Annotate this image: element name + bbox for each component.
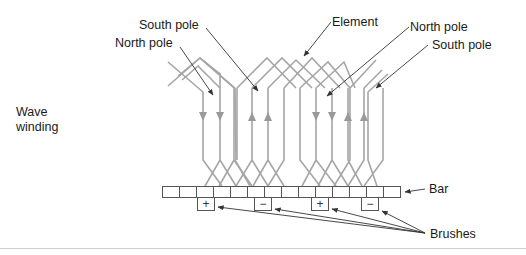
up-arrow-icon bbox=[248, 112, 256, 121]
leader-south-pole-right bbox=[376, 45, 428, 88]
side-label-line1: Wave bbox=[16, 105, 58, 120]
brushes bbox=[198, 198, 379, 211]
down-arrow-icon bbox=[199, 112, 207, 121]
brush-symbol: + bbox=[202, 197, 209, 211]
down-arrow-icon bbox=[312, 112, 320, 121]
label-south-pole-right: South pole bbox=[432, 38, 492, 52]
commutator-bar bbox=[163, 187, 401, 198]
side-label-line2: winding bbox=[16, 120, 58, 135]
brush-symbol: + bbox=[316, 197, 323, 211]
leader-brush-3 bbox=[332, 209, 425, 233]
brush-symbol: − bbox=[366, 197, 373, 211]
down-arrow-icon bbox=[328, 112, 336, 121]
leader-lines bbox=[180, 22, 428, 233]
up-arrow-icon bbox=[360, 112, 368, 121]
leader-element bbox=[304, 22, 331, 56]
label-element: Element bbox=[332, 15, 378, 29]
label-north-pole-right: North pole bbox=[410, 20, 468, 34]
label-south-pole-left: South pole bbox=[139, 18, 199, 32]
leader-north-pole-right bbox=[327, 27, 409, 96]
brush-symbol: − bbox=[259, 197, 266, 211]
label-brushes: Brushes bbox=[430, 227, 476, 241]
down-arrow-icon bbox=[216, 112, 224, 121]
bottom-divider bbox=[0, 248, 526, 249]
label-bar: Bar bbox=[429, 182, 448, 196]
wave-winding-diagram: + − + − South pole North pole Element No… bbox=[0, 0, 526, 255]
up-arrow-icon bbox=[264, 112, 272, 121]
side-label: Wave winding bbox=[16, 105, 58, 135]
label-north-pole-left: North pole bbox=[115, 36, 173, 50]
leader-bar bbox=[405, 189, 425, 192]
